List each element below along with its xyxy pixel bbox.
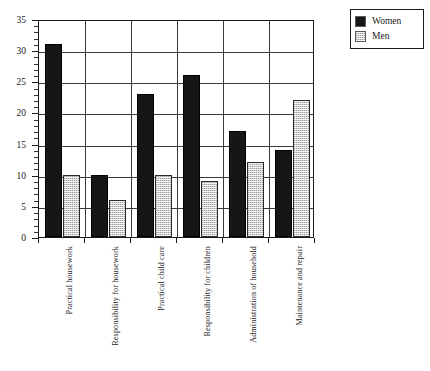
y-tick-minor-28: [34, 64, 38, 65]
y-tick-minor-13: [34, 157, 38, 158]
y-tick-minor-18: [34, 126, 38, 127]
y-tick-minor-9: [34, 182, 38, 183]
category-separator-1: [85, 21, 86, 237]
y-tick-label-20: 20: [4, 108, 26, 118]
y-tick-minor-32: [34, 39, 38, 40]
y-tick-minor-16: [34, 138, 38, 139]
category-label-4: Administration of household: [249, 246, 258, 343]
legend-item-women: Women: [355, 14, 420, 29]
y-tick-minor-33: [34, 32, 38, 33]
y-tick-major-25: [32, 82, 39, 83]
y-tick-major-30: [32, 51, 39, 52]
y-tick-minor-34: [34, 26, 38, 27]
y-tick-minor-21: [34, 107, 38, 108]
y-axis-line: [38, 20, 39, 238]
gridline-y-10: [39, 177, 313, 178]
y-tick-minor-23: [34, 95, 38, 96]
y-tick-minor-24: [34, 89, 38, 90]
plot-area: [38, 20, 314, 238]
category-separator-5: [269, 21, 270, 237]
category-label-3: Responsibility for children: [203, 246, 212, 336]
bar-women-1: [91, 175, 108, 237]
category-label-5: Maintenance and repair: [295, 246, 304, 326]
category-label-1: Responsibility for housework: [111, 246, 120, 346]
x-tick-0: [38, 238, 39, 243]
y-tick-minor-1: [34, 232, 38, 233]
y-tick-major-20: [32, 113, 39, 114]
category-separator-3: [177, 21, 178, 237]
y-tick-major-10: [32, 176, 39, 177]
y-tick-minor-12: [34, 163, 38, 164]
category-separator-4: [223, 21, 224, 237]
bar-women-2: [137, 94, 154, 237]
y-tick-label-5: 5: [4, 202, 26, 212]
legend-swatch-men-icon: [355, 31, 366, 42]
legend-label-women: Women: [372, 16, 401, 27]
bar-women-4: [229, 131, 246, 237]
y-tick-minor-6: [34, 201, 38, 202]
y-tick-major-15: [32, 145, 39, 146]
x-tick-6: [314, 238, 315, 243]
y-tick-label-30: 30: [4, 46, 26, 56]
y-tick-minor-26: [34, 76, 38, 77]
x-tick-5: [268, 238, 269, 243]
y-tick-minor-27: [34, 70, 38, 71]
y-tick-minor-31: [34, 45, 38, 46]
y-tick-minor-22: [34, 101, 38, 102]
bar-men-3: [201, 181, 218, 237]
gridline-y-15: [39, 146, 313, 147]
bar-women-5: [275, 150, 292, 237]
y-tick-minor-17: [34, 132, 38, 133]
y-tick-label-25: 25: [4, 77, 26, 87]
y-tick-minor-2: [34, 226, 38, 227]
category-label-0: Practical housework: [65, 246, 74, 315]
bar-men-2: [155, 175, 172, 237]
y-tick-major-5: [32, 207, 39, 208]
legend: Women Men: [350, 9, 424, 49]
y-tick-minor-7: [34, 194, 38, 195]
bar-women-3: [183, 75, 200, 237]
y-tick-minor-19: [34, 120, 38, 121]
y-tick-label-0: 0: [4, 233, 26, 243]
y-tick-minor-3: [34, 219, 38, 220]
bar-men-1: [109, 200, 126, 237]
y-tick-label-10: 10: [4, 171, 26, 181]
legend-item-men: Men: [355, 29, 420, 44]
x-tick-2: [130, 238, 131, 243]
gridline-y-20: [39, 114, 313, 115]
bar-men-0: [63, 175, 80, 237]
legend-swatch-women-icon: [355, 16, 366, 27]
x-tick-4: [222, 238, 223, 243]
category-label-2: Practical child care: [157, 246, 166, 311]
bar-men-5: [293, 100, 310, 237]
y-tick-minor-14: [34, 151, 38, 152]
bar-chart: 05101520253035 Practical houseworkRespon…: [0, 0, 430, 371]
y-tick-major-35: [32, 20, 39, 21]
y-tick-minor-4: [34, 213, 38, 214]
y-tick-label-35: 35: [4, 15, 26, 25]
y-tick-minor-29: [34, 57, 38, 58]
gridline-y-30: [39, 52, 313, 53]
legend-label-men: Men: [372, 31, 389, 42]
bar-men-4: [247, 162, 264, 237]
gridline-y-5: [39, 208, 313, 209]
y-tick-minor-8: [34, 188, 38, 189]
x-tick-3: [176, 238, 177, 243]
gridline-y-25: [39, 83, 313, 84]
y-tick-label-15: 15: [4, 140, 26, 150]
x-tick-1: [84, 238, 85, 243]
category-separator-2: [131, 21, 132, 237]
y-tick-minor-11: [34, 169, 38, 170]
bar-women-0: [45, 44, 62, 237]
